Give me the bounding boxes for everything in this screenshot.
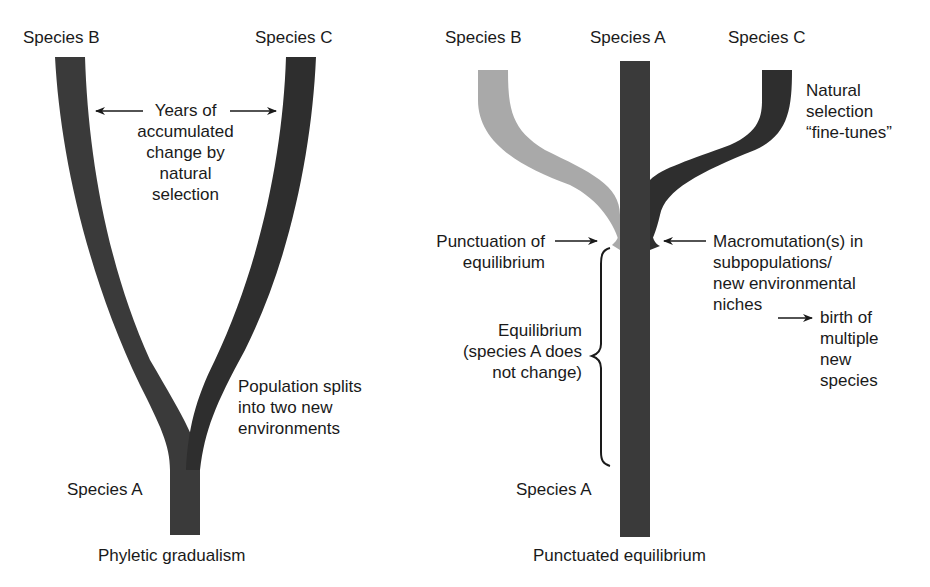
note-line: multiple — [820, 328, 879, 349]
note-punctuation-of-equilibrium: Punctuation of equilibrium — [400, 231, 545, 273]
label-species-a-bottom: Species A — [516, 479, 592, 500]
note-line: selection — [118, 184, 253, 205]
label-species-a-left: Species A — [67, 479, 143, 500]
trunk-species-a — [620, 61, 650, 537]
note-line: environments — [238, 418, 362, 439]
equilibrium-brace — [592, 248, 610, 466]
note-equilibrium: Equilibrium (species A does not change) — [430, 320, 582, 383]
note-population-splits: Population splits into two new environme… — [238, 376, 362, 439]
note-line: Years of — [118, 100, 253, 121]
note-line: new environmental — [713, 273, 863, 294]
title-punctuated-equilibrium: Punctuated equilibrium — [533, 545, 706, 566]
branch-species-b-light — [478, 70, 620, 245]
note-years-of-change: Years of accumulated change by natural s… — [118, 100, 253, 205]
note-line: natural — [118, 163, 253, 184]
note-line: not change) — [430, 362, 582, 383]
note-natural-selection-fine-tunes: Natural selection “fine-tunes” — [806, 80, 892, 143]
note-line: (species A does — [430, 341, 582, 362]
branch-species-c-dark — [650, 70, 792, 245]
title-phyletic-gradualism: Phyletic gradualism — [98, 545, 245, 566]
note-line: Equilibrium — [430, 320, 582, 341]
label-species-c-right: Species C — [728, 27, 805, 48]
note-line: change by — [118, 142, 253, 163]
note-line: species — [820, 370, 879, 391]
note-line: Punctuation of — [400, 231, 545, 252]
note-line: subpopulations/ — [713, 252, 863, 273]
label-species-b-left: Species B — [23, 27, 100, 48]
note-line: Macromutation(s) in — [713, 231, 863, 252]
note-macromutations: Macromutation(s) in subpopulations/ new … — [713, 231, 863, 315]
note-line: into two new — [238, 397, 362, 418]
note-birth-of-new-species: birth of multiple new species — [820, 307, 879, 391]
note-line: “fine-tunes” — [806, 122, 892, 143]
note-line: Population splits — [238, 376, 362, 397]
note-line: equilibrium — [400, 252, 545, 273]
note-line: accumulated — [118, 121, 253, 142]
label-species-c-left: Species C — [255, 27, 332, 48]
note-line: new — [820, 349, 879, 370]
label-species-b-right: Species B — [445, 27, 522, 48]
note-line: birth of — [820, 307, 879, 328]
note-line: selection — [806, 101, 892, 122]
label-species-a-top: Species A — [590, 27, 666, 48]
note-line: Natural — [806, 80, 892, 101]
